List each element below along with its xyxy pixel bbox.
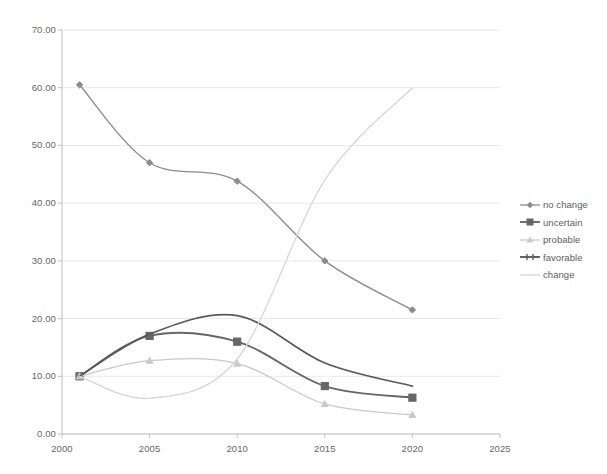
legend-item-uncertain[interactable]: uncertain bbox=[519, 214, 607, 232]
y-axis-tick-label: 60.00 bbox=[6, 82, 56, 93]
y-axis-tick-label: 50.00 bbox=[6, 139, 56, 150]
legend-item-probable[interactable]: probable bbox=[519, 231, 607, 249]
legend-item-label: change bbox=[541, 269, 574, 280]
legend-item-label: favorable bbox=[541, 252, 583, 263]
y-axis-tick-label: 0.00 bbox=[6, 428, 56, 439]
plot-area bbox=[0, 0, 607, 474]
series-change bbox=[80, 88, 413, 399]
data-point-marker bbox=[321, 382, 328, 389]
y-axis-tick-label: 10.00 bbox=[6, 370, 56, 381]
legend-swatch-icon bbox=[519, 198, 541, 212]
x-axis-tick-label: 2025 bbox=[475, 443, 525, 454]
chart-legend: no changeuncertainprobablefavorablechang… bbox=[519, 196, 607, 284]
legend-item-label: probable bbox=[541, 234, 580, 245]
y-axis-tick-label: 40.00 bbox=[6, 197, 56, 208]
series-line bbox=[80, 333, 413, 398]
gridlines bbox=[62, 30, 500, 434]
legend-swatch-icon bbox=[519, 233, 541, 247]
series-line bbox=[80, 359, 413, 415]
axis-lines bbox=[58, 30, 500, 438]
y-axis-tick-label: 20.00 bbox=[6, 313, 56, 324]
legend-item-label: uncertain bbox=[541, 217, 583, 228]
data-point-marker bbox=[234, 338, 241, 345]
x-axis-tick-label: 2010 bbox=[212, 443, 262, 454]
x-axis-tick-label: 2015 bbox=[300, 443, 350, 454]
series-line bbox=[80, 88, 413, 399]
series-no-change bbox=[76, 82, 415, 313]
data-point-marker bbox=[409, 394, 416, 401]
data-point-marker bbox=[409, 307, 415, 313]
x-axis-tick-label: 2020 bbox=[387, 443, 437, 454]
legend-item-favorable[interactable]: favorable bbox=[519, 249, 607, 267]
series-line bbox=[80, 315, 413, 386]
legend-item-change[interactable]: change bbox=[519, 266, 607, 284]
series-probable bbox=[76, 357, 416, 417]
x-axis-tick-label: 2000 bbox=[37, 443, 87, 454]
legend-swatch-icon bbox=[519, 268, 541, 282]
series-layer bbox=[76, 82, 416, 418]
legend-item-no-change[interactable]: no change bbox=[519, 196, 607, 214]
x-axis-tick-label: 2005 bbox=[125, 443, 175, 454]
y-axis-tick-label: 70.00 bbox=[6, 24, 56, 35]
legend-item-label: no change bbox=[541, 199, 588, 210]
line-chart: 70.0060.0050.0040.0030.0020.0010.000.00 … bbox=[0, 0, 607, 474]
legend-swatch-icon bbox=[519, 215, 541, 229]
legend-swatch-icon bbox=[519, 250, 541, 264]
series-line bbox=[80, 85, 413, 310]
y-axis-tick-label: 30.00 bbox=[6, 255, 56, 266]
data-point-marker bbox=[234, 178, 240, 184]
series-favorable bbox=[80, 315, 413, 386]
